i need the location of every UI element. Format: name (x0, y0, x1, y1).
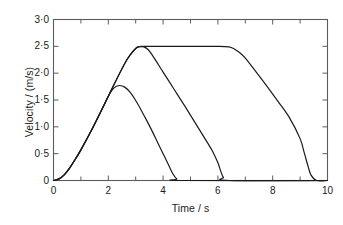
axis-frame (54, 20, 328, 181)
series-line-short-trip (54, 85, 328, 180)
x-axis-title: Time / s (53, 202, 328, 214)
velocity-time-chart: Velocity / (m/s) 00·51·01·52·02·53·0 024… (0, 0, 343, 225)
series-line-long-trip (54, 46, 328, 181)
plot-area (0, 0, 343, 225)
